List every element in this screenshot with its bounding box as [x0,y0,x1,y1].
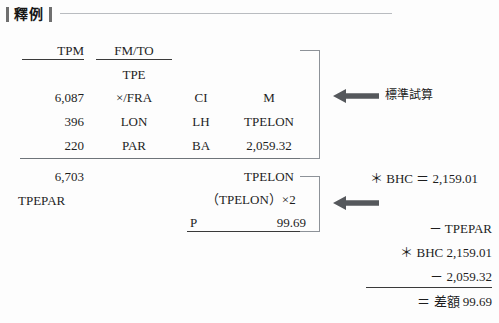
annotation-bhc-equals: ＊ BHC ＝ 2,159.01 [370,172,492,185]
section-header: 釋例 [6,4,52,24]
computation-minus-tpepar: － TPEPAR [356,222,492,235]
header-bar-left [6,7,9,22]
bracket-difference-calc [300,176,320,232]
arrow-left-icon [333,88,379,104]
table-row-3-tpm: 396 [22,115,84,128]
column-header-tpm: TPM [22,44,84,60]
annotation-standard-calc: 標準試算 [385,89,433,101]
total-route-label: TPEPAR [18,194,65,207]
total-tpm: 6,703 [22,170,84,183]
table-row-2-fmto: ×/FRA [96,91,172,104]
page-title: 釋例 [14,7,44,21]
column-header-fmto: FM/TO [96,44,172,60]
total-p-underline [187,231,308,232]
table-row-2-tpm: 6,087 [22,91,84,104]
table-row-2-carrier: CI [176,91,226,104]
computation-difference: ＝ 差額 99.69 [356,295,492,308]
table-row-4-tpm: 220 [22,139,84,152]
computation-underline [366,287,492,288]
total-p-value: 99.69 [232,216,306,229]
total-calc-line: （TPELON）×2 [206,193,296,206]
table-row-3-carrier: LH [176,115,226,128]
bracket-standard-calc [300,50,320,159]
table-row-1-fmto: TPE [96,68,172,81]
table-row-4-carrier: BA [176,139,226,152]
table-bottom-divider [20,158,305,159]
computation-bhc-value: ＊ BHC 2,159.01 [356,246,492,259]
table-row-4-fmto: PAR [96,139,172,152]
table-row-3-fmto: LON [96,115,172,128]
header-bar-right [49,7,52,22]
computation-minus-amount: － 2,059.32 [356,270,492,283]
total-p-label: P [190,216,197,229]
arrow-left-icon [333,195,379,211]
header-divider [60,13,392,14]
worksheet-page: 釋例 TPM FM/TO TPE 6,087 ×/FRA CI M 396 LO… [0,0,499,323]
